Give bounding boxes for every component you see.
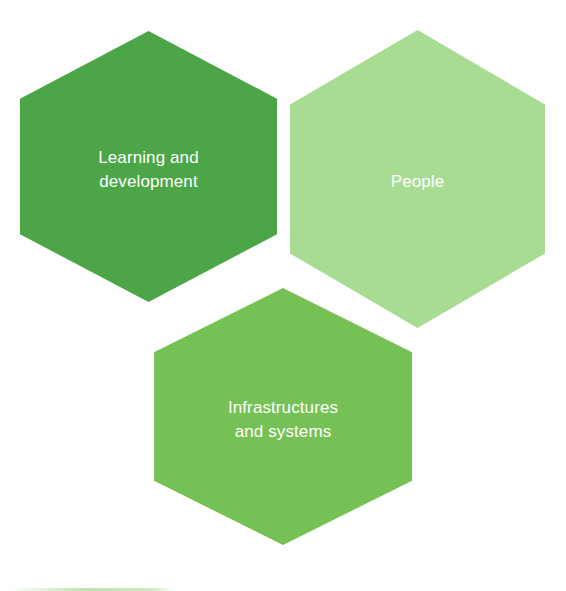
hexagon-diagram: Learning and development People Infrastr… — [0, 0, 566, 591]
hexagon-label-people: People — [391, 170, 445, 194]
hexagon-learning-development[interactable]: Learning and development — [20, 31, 277, 302]
hexagon-infrastructures-systems[interactable]: Infrastructures and systems — [154, 288, 412, 545]
hexagon-label-infrastructures-systems: Infrastructures and systems — [228, 396, 338, 444]
hexagon-label-learning-development: Learning and development — [98, 146, 198, 194]
hexagon-people[interactable]: People — [290, 30, 545, 328]
